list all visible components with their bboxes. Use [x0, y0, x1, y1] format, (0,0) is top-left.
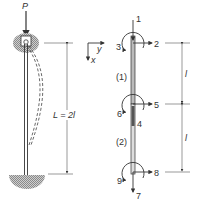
node-top — [122, 20, 152, 48]
dof-label-1: 1 — [136, 14, 141, 24]
dof-label-5: 5 — [154, 100, 159, 110]
dof-label-7: 7 — [136, 191, 141, 201]
load-label: P — [22, 1, 28, 11]
segment-length-label-2: l — [185, 133, 188, 143]
left-column-figure: P L = 2l — [9, 1, 82, 189]
dof-label-3: 3 — [116, 42, 121, 52]
dof-label-6: 6 — [117, 109, 122, 119]
right-discretized-figure: 1 2 3 (1) 5 6 4 (2) 8 9 7 l l — [116, 14, 190, 201]
dof-label-9: 9 — [117, 176, 122, 186]
fixed-base-support-icon — [9, 175, 45, 189]
node-middle — [122, 94, 152, 110]
dof-label-2: 2 — [154, 39, 159, 49]
segment-dimensions — [165, 43, 190, 172]
column-member — [25, 44, 28, 175]
length-label: L = 2l — [53, 110, 76, 120]
y-axis-label: y — [96, 44, 102, 54]
dof-label-8: 8 — [154, 168, 159, 178]
element-label-2: (2) — [116, 137, 127, 147]
segment-length-label-1: l — [185, 69, 188, 79]
node-bottom — [122, 162, 152, 192]
member-element-1 — [131, 36, 135, 104]
buckled-shape-dashed — [27, 46, 43, 145]
pinned-support-icon — [13, 33, 39, 53]
dof-label-4: 4 — [137, 119, 142, 129]
length-dimension — [44, 43, 73, 174]
column-stability-diagram: P L = 2l y — [0, 0, 201, 202]
element-label-1: (1) — [116, 72, 127, 82]
coordinate-axes: y x — [88, 43, 104, 65]
member-element-2 — [131, 104, 135, 174]
x-axis-label: x — [90, 55, 96, 65]
